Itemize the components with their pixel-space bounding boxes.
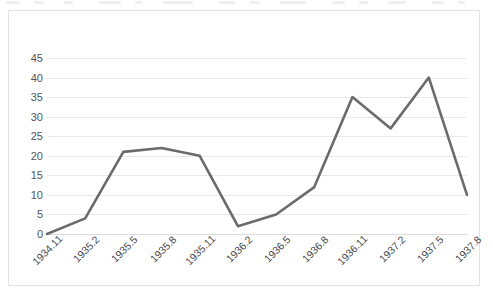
- scan-smudge: [6, 1, 20, 4]
- y-axis-tick-label: 40: [31, 72, 43, 83]
- scan-smudge: [135, 1, 143, 4]
- x-axis-tick-label: 1937.8: [453, 234, 483, 264]
- x-axis-tick-label: 1935.2: [71, 234, 101, 264]
- scan-smudge: [280, 1, 306, 4]
- line-chart-figure: 051015202530354045 1934.111935.21935.519…: [8, 10, 480, 286]
- x-axis-tick-label: 1936.8: [300, 234, 330, 264]
- x-axis-tick-label: 1936.11: [336, 233, 370, 267]
- scan-smudge: [359, 1, 368, 4]
- y-axis-tick-label: 5: [37, 209, 43, 220]
- x-axis-tick-label: 1937.2: [377, 234, 407, 264]
- scan-smudge: [64, 1, 73, 4]
- x-axis-tick-label: 1937.5: [415, 234, 445, 264]
- x-axis-tick-label: 1935.8: [148, 234, 178, 264]
- y-axis-tick-label: 45: [31, 53, 43, 64]
- gridline-0: [47, 234, 467, 235]
- y-axis-tick-label: 10: [31, 189, 43, 200]
- scan-smudge: [458, 1, 465, 4]
- y-axis-tick-label: 25: [31, 131, 43, 142]
- scan-smudge: [34, 1, 44, 4]
- scan-smudge: [432, 1, 444, 4]
- scan-smudge: [163, 1, 193, 4]
- plot-area: [47, 58, 467, 234]
- y-axis-tick-label: 30: [31, 111, 43, 122]
- y-axis-tick-label: 20: [31, 150, 43, 161]
- scan-artifact-strip: [0, 0, 493, 7]
- x-axis-tick-label: 1936.5: [262, 234, 292, 264]
- y-axis: 051015202530354045: [9, 58, 43, 234]
- x-axis-tick-label: 1936.2: [224, 234, 254, 264]
- y-axis-tick-label: 35: [31, 92, 43, 103]
- x-axis: 1934.111935.21935.51935.81935.111936.219…: [47, 236, 467, 288]
- y-axis-tick-label: 0: [37, 229, 43, 240]
- scan-smudge: [332, 1, 345, 4]
- scan-smudge: [219, 1, 235, 4]
- x-axis-tick-label: 1935.5: [110, 234, 140, 264]
- y-axis-tick-label: 15: [31, 170, 43, 181]
- scan-smudge: [99, 1, 121, 4]
- data-series-line: [47, 58, 467, 234]
- x-axis-tick-label: 1935.11: [183, 233, 217, 267]
- scan-smudge: [388, 1, 406, 4]
- scan-smudge: [249, 1, 260, 4]
- x-axis-tick-label: 1934.11: [30, 233, 64, 267]
